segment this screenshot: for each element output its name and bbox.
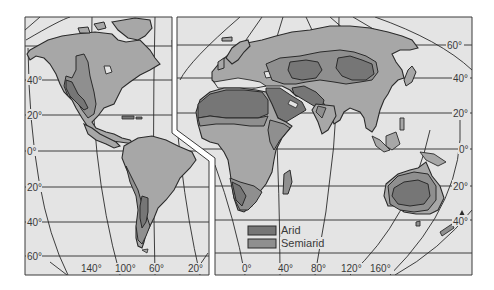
long-label: 160° xyxy=(370,263,391,274)
central-asia-arid-west xyxy=(288,60,322,80)
lat-label: 20° xyxy=(453,181,468,192)
lat-label: 0° xyxy=(459,144,469,155)
long-label: 20° xyxy=(188,263,203,274)
legend-label-arid: Arid xyxy=(281,224,301,236)
tasmania xyxy=(416,221,420,226)
legend-swatch-semiarid xyxy=(248,239,276,248)
arid-regions-map: 40° 20° 0° 20° 40° 60° 140° 100° 60° 20° xyxy=(0,0,494,290)
panel-eastern-hemisphere: Arid Semiarid 60° 40° 20° 0° 20° 40° 0° … xyxy=(177,17,472,275)
long-label: 40° xyxy=(278,263,293,274)
caribbean-islands xyxy=(122,116,134,119)
long-label: 0° xyxy=(242,263,252,274)
long-label: 140° xyxy=(81,263,102,274)
lat-label: 40° xyxy=(27,217,42,228)
lat-label: 40° xyxy=(27,75,42,86)
legend-label-semiarid: Semiarid xyxy=(281,237,324,249)
caribbean-islands xyxy=(136,117,142,119)
arctic-island xyxy=(78,27,90,33)
lat-label: 20° xyxy=(27,110,42,121)
lat-label: 40° xyxy=(453,73,468,84)
lat-label: 20° xyxy=(453,108,468,119)
lat-label: 60° xyxy=(447,40,462,51)
lat-label: 40° xyxy=(453,216,468,227)
iceland xyxy=(222,37,232,41)
long-label: 100° xyxy=(115,263,136,274)
lat-label: 20° xyxy=(27,182,42,193)
long-label: 80° xyxy=(311,263,326,274)
legend-swatch-arid xyxy=(248,226,276,235)
long-label: 120° xyxy=(341,263,362,274)
lat-label: 0° xyxy=(27,146,37,157)
sahel-semiarid xyxy=(198,116,268,126)
long-label: 60° xyxy=(149,263,164,274)
philippines xyxy=(400,118,404,130)
lat-label: 60° xyxy=(27,251,42,262)
